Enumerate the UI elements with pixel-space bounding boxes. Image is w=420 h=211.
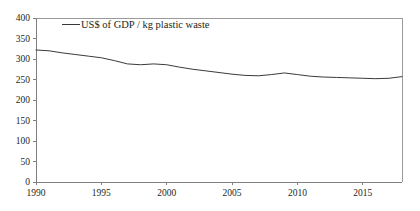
line-chart: 050100150200250300350400 199019952000200… <box>0 0 420 211</box>
y-tick-label: 50 <box>21 157 31 167</box>
y-tick-label: 350 <box>16 34 31 44</box>
x-tick-label: 2010 <box>288 188 307 198</box>
x-tick-label: 1990 <box>27 188 46 198</box>
chart-container: 050100150200250300350400 199019952000200… <box>0 0 420 211</box>
x-tick-label: 2015 <box>353 188 372 198</box>
y-tick-label: 300 <box>16 54 31 64</box>
legend-label: US$ of GDP / kg plastic waste <box>81 19 210 30</box>
chart-background <box>0 0 420 211</box>
y-tick-label: 200 <box>16 95 31 105</box>
y-tick-label: 400 <box>16 13 31 23</box>
chart-legend: US$ of GDP / kg plastic waste <box>62 19 210 30</box>
y-tick-label: 150 <box>16 116 31 126</box>
y-tick-label: 250 <box>16 75 31 85</box>
x-tick-label: 2005 <box>223 188 242 198</box>
y-tick-label: 100 <box>16 136 31 146</box>
y-tick-label: 0 <box>25 177 30 187</box>
x-tick-label: 1995 <box>92 188 111 198</box>
x-tick-label: 2000 <box>157 188 176 198</box>
